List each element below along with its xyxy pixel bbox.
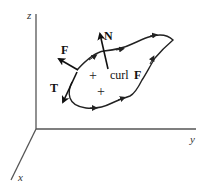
curl-vector-symbol: F bbox=[134, 68, 141, 82]
orientation-plus: + bbox=[89, 68, 97, 83]
x-axis bbox=[11, 129, 36, 180]
field-vector-label: F bbox=[61, 43, 68, 57]
field-vector-arrow bbox=[59, 59, 78, 70]
orientation-marks: + + bbox=[89, 68, 105, 99]
z-axis-label: z bbox=[26, 9, 32, 21]
orientation-plus: + bbox=[97, 84, 105, 99]
tangent-vector-label: T bbox=[50, 81, 58, 95]
curl-label: curl F bbox=[110, 68, 141, 82]
stokes-theorem-diagram: z y x N F T + + curl F bbox=[0, 0, 208, 185]
curl-text: curl bbox=[110, 68, 129, 82]
normal-vector-label: N bbox=[104, 29, 113, 43]
x-axis-label: x bbox=[17, 171, 23, 183]
y-axis-label: y bbox=[189, 133, 195, 145]
